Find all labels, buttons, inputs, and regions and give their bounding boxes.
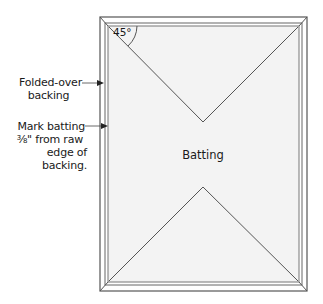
- callout-line: Mark batting: [0, 120, 87, 133]
- batting-label: Batting: [182, 148, 224, 162]
- callout-mark-batting: Mark batting ⅜" from raw edge of backing…: [0, 120, 87, 172]
- callout-line: edge of backing.: [0, 146, 87, 172]
- callout-line: Folded-over: [19, 76, 82, 89]
- callout-line: ⅜" from raw: [0, 133, 87, 146]
- angle-label: 45°: [113, 26, 132, 38]
- callout-line: backing: [19, 89, 82, 102]
- callout-folded-over-backing: Folded-over backing: [19, 76, 82, 102]
